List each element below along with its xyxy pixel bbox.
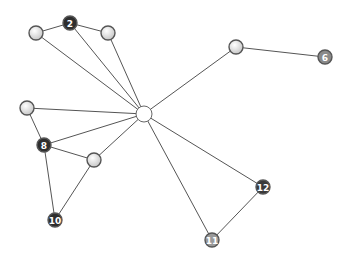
- edge-n4-hub: [144, 47, 236, 114]
- edge-layer: [27, 23, 325, 240]
- node-circle: [20, 101, 34, 115]
- node-n2[interactable]: 2: [63, 16, 77, 30]
- node-layer: 268101211: [20, 16, 332, 247]
- node-label: 12: [257, 183, 270, 193]
- edge-n12-hub: [144, 114, 263, 187]
- node-label: 6: [322, 53, 328, 63]
- node-circle: [101, 26, 115, 40]
- node-n1[interactable]: [29, 26, 43, 40]
- node-n11[interactable]: 11: [205, 233, 219, 247]
- node-n7[interactable]: [20, 101, 34, 115]
- edge-n8-n9: [44, 145, 94, 160]
- node-label: 11: [206, 236, 219, 246]
- node-n6[interactable]: 6: [318, 50, 332, 64]
- node-circle: [29, 26, 43, 40]
- node-circle: [87, 153, 101, 167]
- node-n10[interactable]: 10: [48, 213, 62, 227]
- node-n12[interactable]: 12: [256, 180, 270, 194]
- edge-n9-hub: [94, 114, 144, 160]
- edge-n11-hub: [144, 114, 212, 240]
- node-n4[interactable]: [229, 40, 243, 54]
- node-circle: [136, 106, 152, 122]
- edge-n3-hub: [108, 33, 144, 114]
- edge-n7-hub: [27, 108, 144, 114]
- hub-node[interactable]: [136, 106, 152, 122]
- node-label: 10: [49, 216, 62, 226]
- node-n9[interactable]: [87, 153, 101, 167]
- node-circle: [229, 40, 243, 54]
- edge-n4-n6: [236, 47, 325, 57]
- node-label: 8: [41, 141, 47, 151]
- node-n8[interactable]: 8: [37, 138, 51, 152]
- edge-n8-n10: [44, 145, 55, 220]
- network-graph: 268101211: [0, 0, 350, 266]
- edge-n1-hub: [36, 33, 144, 114]
- node-label: 2: [67, 19, 73, 29]
- node-n3[interactable]: [101, 26, 115, 40]
- edge-n9-n10: [55, 160, 94, 220]
- edge-n11-n12: [212, 187, 263, 240]
- edge-n8-hub: [44, 114, 144, 145]
